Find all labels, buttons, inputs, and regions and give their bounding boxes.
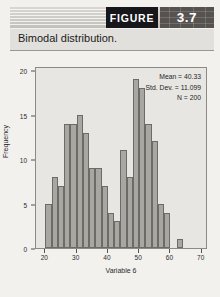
stat-mean: Mean = 40.33 (146, 72, 201, 83)
histogram-bar (164, 213, 170, 249)
figure-caption: Bimodal distribution. (18, 32, 117, 44)
x-tick-label: 50 (135, 254, 142, 261)
stat-n: N = 200 (146, 93, 201, 104)
x-tick-label: 70 (197, 254, 204, 261)
stats-annotation: Mean = 40.33 Std. Dev. = 11.099 N = 200 (146, 72, 201, 104)
caption-band: Bimodal distribution. (10, 29, 214, 51)
x-tick-mark (169, 249, 170, 253)
figure-page: FIGURE 3.7 Bimodal distribution. 0510152… (0, 0, 220, 297)
y-axis-title: Frequency (2, 125, 9, 158)
y-tick-label: 10 (20, 157, 27, 164)
x-tick-label: 40 (103, 254, 110, 261)
histogram-bar (177, 239, 183, 248)
x-tick-label: 30 (72, 254, 79, 261)
figure-number-box: 3.7 (160, 7, 214, 28)
plot-area: Mean = 40.33 Std. Dev. = 11.099 N = 200 (35, 67, 207, 249)
x-tick-mark (201, 249, 202, 253)
x-tick-mark (138, 249, 139, 253)
figure-tag: FIGURE (106, 7, 158, 28)
x-tick-mark (107, 249, 108, 253)
y-tick-label: 0 (23, 246, 27, 253)
stat-std-dev: Std. Dev. = 11.099 (146, 83, 201, 94)
figure-label: FIGURE (110, 12, 154, 24)
y-tick-label: 20 (20, 68, 27, 75)
x-tick-mark (76, 249, 77, 253)
figure-number: 3.7 (177, 10, 197, 25)
y-tick-label: 5 (23, 201, 27, 208)
x-tick-mark (44, 249, 45, 253)
x-tick-label: 20 (41, 254, 48, 261)
y-tick-label: 15 (20, 112, 27, 119)
y-axis: 05101520 (0, 67, 35, 249)
x-axis-title: Variable 6 (35, 267, 207, 274)
histogram-figure: 05101520 Frequency Mean = 40.33 Std. Dev… (0, 52, 220, 297)
x-tick-label: 60 (166, 254, 173, 261)
